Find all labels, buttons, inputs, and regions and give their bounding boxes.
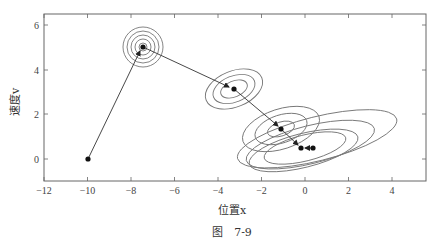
x-tick-label: −2 <box>256 185 267 196</box>
x-tick-label: −12 <box>36 185 52 196</box>
x-tick-label: −6 <box>169 185 180 196</box>
data-point <box>85 156 90 161</box>
x-tick-labels: −12 −10 −8 −6 −4 −2 0 2 4 <box>36 185 394 196</box>
y-tick-label: 0 <box>34 154 39 165</box>
data-point <box>278 126 283 131</box>
data-point <box>310 145 315 150</box>
figure-caption: 图 7-9 <box>212 226 252 239</box>
y-axis-title: 速度v <box>8 87 22 116</box>
x-tick-label: 2 <box>346 185 351 196</box>
x-tick-label: −10 <box>80 185 96 196</box>
y-axis-ticks <box>44 25 426 159</box>
x-tick-label: −4 <box>213 185 224 196</box>
contour-group-4 <box>232 98 402 183</box>
arrow-0-1 <box>88 51 140 159</box>
data-point <box>231 86 236 91</box>
arrow-2-3 <box>234 89 278 126</box>
x-tick-label: 4 <box>390 185 395 196</box>
uncertainty-contours <box>123 27 403 183</box>
y-tick-label: 2 <box>34 109 39 120</box>
chart-figure: −12 −10 −8 −6 −4 −2 0 2 4 0 2 4 6 位置x 速度… <box>0 0 442 245</box>
x-axis-ticks <box>44 14 392 181</box>
x-tick-label: −8 <box>126 185 137 196</box>
data-points <box>85 44 315 161</box>
y-tick-labels: 0 2 4 6 <box>34 20 39 165</box>
y-tick-label: 4 <box>34 65 39 76</box>
data-point <box>140 44 145 49</box>
x-tick-label: 0 <box>303 185 308 196</box>
data-point <box>298 145 303 150</box>
trajectory-arrows <box>88 47 313 159</box>
x-axis-title: 位置x <box>218 203 247 217</box>
arrow-1-2 <box>143 47 229 87</box>
y-tick-label: 6 <box>34 20 39 31</box>
